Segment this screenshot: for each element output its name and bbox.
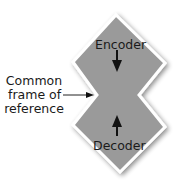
pointer-arrow-icon [63,92,94,98]
side-label-line-1: Common [4,74,64,88]
side-label-line-3: reference [4,102,64,116]
side-label-line-2: frame of [4,88,64,102]
encoder-label: Encoder [95,38,139,52]
common-frame-label: Common frame of reference [4,74,64,116]
decoder-label: Decoder [93,139,143,153]
